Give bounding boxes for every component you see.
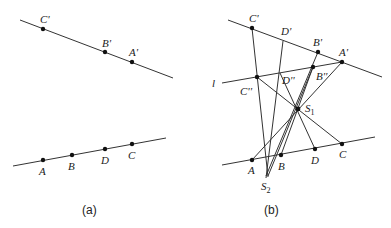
point-b <box>70 153 74 157</box>
label-b-dprime: B'' <box>316 70 328 82</box>
label-c-prime: C' <box>40 13 50 25</box>
label-c: C <box>339 148 347 160</box>
point-c-prime <box>41 27 45 31</box>
label-d: D <box>310 154 319 166</box>
point-a <box>41 158 45 162</box>
point-c <box>340 142 344 146</box>
lower-line-b <box>222 137 375 165</box>
label-c-prime: C' <box>249 12 259 24</box>
label-b-prime: B' <box>102 37 112 49</box>
point-b <box>279 153 283 157</box>
line-d-prime-s2 <box>266 41 283 178</box>
label-b-prime: B' <box>313 36 323 48</box>
label-a: A <box>247 164 255 176</box>
label-b: B <box>278 160 285 172</box>
projective-construction-diagram: C' B' A' A B D C (a) C' D' <box>0 0 391 228</box>
point-a-prime <box>340 60 344 64</box>
point-a-prime <box>130 60 134 64</box>
label-c: C <box>128 149 136 161</box>
label-d: D <box>100 154 109 166</box>
caption-a: (a) <box>82 203 97 217</box>
panel-b: C' D' B' A' l C'' D'' B'' S1 A B D C S2 … <box>212 12 382 217</box>
point-a <box>250 158 254 162</box>
label-b: B <box>68 160 75 172</box>
label-a-prime: A' <box>128 46 139 58</box>
point-c-dprime <box>255 75 259 79</box>
point-s1 <box>296 107 301 112</box>
panel-a: C' B' A' A B D C (a) <box>13 13 173 217</box>
label-s2: S2 <box>261 180 271 195</box>
label-a-prime: A' <box>338 46 349 58</box>
caption-b: (b) <box>264 203 279 217</box>
point-b-prime <box>103 50 107 54</box>
label-d-prime: D' <box>280 25 292 37</box>
lower-line-a <box>13 138 166 166</box>
label-a: A <box>38 165 46 177</box>
label-l: l <box>212 77 215 89</box>
label-d-dprime: D'' <box>281 74 295 86</box>
label-s1: S1 <box>305 102 315 117</box>
point-d <box>103 147 107 151</box>
point-d <box>313 147 317 151</box>
point-c <box>130 142 134 146</box>
point-b-dprime <box>311 65 315 69</box>
point-c-prime <box>250 26 254 30</box>
point-b-prime <box>316 50 320 54</box>
label-c-dprime: C'' <box>240 85 253 97</box>
line-c-prime-s2 <box>252 28 268 177</box>
